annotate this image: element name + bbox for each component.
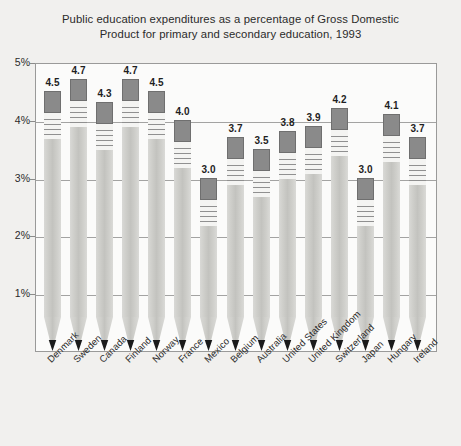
pencil-body: [305, 174, 322, 317]
pencil-ferrule: [357, 200, 374, 226]
bar-pencil: 4.5: [44, 91, 61, 351]
pencil-ferrule-band: [305, 169, 322, 170]
pencil-eraser: [44, 91, 61, 113]
pencil-ferrule-band: [331, 151, 348, 152]
bar-value-label: 3.0: [202, 164, 216, 175]
pencil-ferrule-band: [174, 158, 191, 159]
pencil-ferrule-band: [357, 206, 374, 207]
bar-value-label: 3.7: [229, 123, 243, 134]
bar-pencil: 4.1: [383, 114, 400, 351]
pencil-body: [70, 127, 87, 317]
bar-value-label: 3.9: [307, 112, 321, 123]
pencil-ferrule-band: [357, 211, 374, 212]
pencil-ferrule-band: [331, 141, 348, 142]
pencil-ferrule-band: [122, 107, 139, 108]
pencil-eraser: [279, 131, 296, 153]
pencil-ferrule-band: [70, 112, 87, 113]
pencil-eraser: [227, 137, 244, 159]
bar-pencil: 4.7: [122, 79, 139, 351]
pencil-ferrule: [148, 113, 165, 139]
pencil-body: [227, 185, 244, 317]
pencil-ferrule-band: [227, 165, 244, 166]
pencil-body: [122, 127, 139, 317]
pencil-ferrule: [409, 159, 426, 185]
pencil-body: [409, 185, 426, 317]
pencil-ferrule-band: [305, 164, 322, 165]
pencil-ferrule-band: [174, 148, 191, 149]
pencil-body: [383, 162, 400, 317]
pencil-ferrule-band: [331, 146, 348, 147]
pencil-ferrule-band: [279, 164, 296, 165]
pencil-ferrule: [96, 124, 113, 150]
pencil-ferrule-band: [44, 129, 61, 130]
pencil-body: [44, 139, 61, 317]
pencil-eraser: [383, 114, 400, 136]
pencil-body: [148, 139, 165, 317]
chart-title-line-2: Product for primary and secondary educat…: [0, 27, 461, 42]
pencil-ferrule-band: [96, 145, 113, 146]
chart-title: Public education expenditures as a perce…: [0, 12, 461, 42]
bar-value-label: 4.2: [333, 94, 347, 105]
pencil-ferrule-band: [409, 165, 426, 166]
pencil-eraser: [174, 120, 191, 142]
bar-pencil: 3.5: [253, 149, 270, 351]
pencil-eraser: [331, 108, 348, 130]
pencil-ferrule: [227, 159, 244, 185]
pencil-ferrule-band: [383, 152, 400, 153]
pencil-ferrule-band: [96, 140, 113, 141]
bar-pencil: 3.8: [279, 131, 296, 351]
bar-pencil: 4.2: [331, 108, 348, 351]
bar-pencil: 4.5: [148, 91, 165, 351]
pencil-ferrule-band: [200, 206, 217, 207]
pencil-ferrule: [331, 130, 348, 156]
pencil-ferrule-band: [331, 136, 348, 137]
y-axis-tick-mark: [30, 179, 35, 180]
bar-value-label: 3.7: [411, 123, 425, 134]
bar-pencil: 4.3: [96, 102, 113, 351]
bar-value-label: 3.0: [359, 164, 373, 175]
pencil-ferrule-band: [279, 169, 296, 170]
y-axis-tick-label: 5%: [4, 56, 30, 68]
pencil-ferrule-band: [383, 157, 400, 158]
pencil-ferrule-band: [279, 159, 296, 160]
plot-area: 4.54.74.34.74.54.03.03.73.53.83.94.23.04…: [35, 63, 437, 352]
y-axis-tick-label: 4%: [4, 114, 30, 126]
pencil-ferrule-band: [253, 192, 270, 193]
pencil-ferrule: [253, 171, 270, 197]
bar-value-label: 4.3: [98, 88, 112, 99]
pencil-ferrule-band: [383, 147, 400, 148]
pencil-ferrule-band: [70, 107, 87, 108]
bar-value-label: 4.7: [72, 65, 86, 76]
pencil-ferrule-band: [227, 170, 244, 171]
pencil-ferrule-band: [305, 159, 322, 160]
pencil-ferrule-band: [148, 119, 165, 120]
pencil-ferrule-band: [44, 124, 61, 125]
pencil-ferrule-band: [122, 122, 139, 123]
bar-value-label: 4.1: [385, 100, 399, 111]
pencil-body: [200, 226, 217, 317]
pencil-eraser: [253, 149, 270, 171]
pencil-body: [357, 226, 374, 317]
pencil-eraser: [148, 91, 165, 113]
pencil-ferrule-band: [148, 124, 165, 125]
pencil-ferrule-band: [253, 182, 270, 183]
pencil-ferrule: [70, 101, 87, 127]
bar-value-label: 4.5: [46, 77, 60, 88]
bar-value-label: 4.5: [150, 77, 164, 88]
pencil-ferrule: [44, 113, 61, 139]
pencil-ferrule-band: [305, 154, 322, 155]
pencil-ferrule-band: [122, 117, 139, 118]
pencil-ferrule-band: [44, 119, 61, 120]
pencil-ferrule-band: [357, 216, 374, 217]
pencil-eraser: [200, 178, 217, 200]
pencil-ferrule-band: [357, 221, 374, 222]
y-axis-tick-label: 2%: [4, 229, 30, 241]
pencil-ferrule-band: [279, 174, 296, 175]
pencil-eraser: [357, 178, 374, 200]
pencil-ferrule-band: [200, 216, 217, 217]
bar-pencil: 3.7: [409, 137, 426, 351]
pencil-ferrule-band: [148, 134, 165, 135]
pencil-body: [253, 197, 270, 317]
y-axis-tick-mark: [30, 121, 35, 122]
pencil-ferrule: [383, 136, 400, 162]
